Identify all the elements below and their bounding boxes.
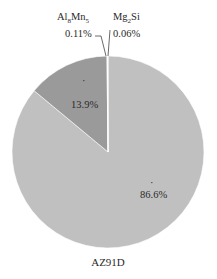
chart-title: AZ91D (91, 256, 125, 268)
label-slice-13-9: 13.9% (71, 99, 98, 110)
pie-chart: Al8Mn5 0.11% Mg2Si 0.06% · 13.9% · 86.6%… (0, 0, 217, 279)
label-mg2si-name: Mg2Si (113, 11, 140, 25)
label-al8mn5-name: Al8Mn5 (57, 11, 90, 25)
slice-dot-13-9: · (82, 75, 86, 86)
label-al8mn5-value: 0.11% (65, 28, 92, 39)
pie-slices (12, 56, 204, 248)
leader-line-al8mn5 (95, 36, 106, 56)
label-mg2si-value: 0.06% (113, 28, 140, 39)
slice-dot-86-6: · (150, 177, 154, 188)
label-slice-86-6: 86.6% (140, 189, 167, 200)
leader-line-mg2si (108, 30, 110, 56)
